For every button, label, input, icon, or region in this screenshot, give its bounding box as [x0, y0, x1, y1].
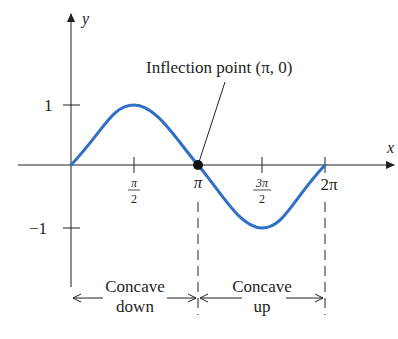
concave-up-line1: Concave: [232, 277, 291, 296]
y-axis-label: y: [80, 10, 90, 28]
inflection-point-label: Inflection point (π, 0): [146, 58, 292, 77]
x-tick-pi: π: [194, 173, 203, 192]
annotation-leader-line: [198, 82, 225, 165]
concave-down-line1: Concave: [105, 277, 164, 296]
concave-down-line2: down: [116, 297, 154, 316]
inflection-point-marker: [193, 160, 203, 170]
concave-up-line2: up: [254, 297, 271, 316]
sine-concavity-diagram: y x 1 −1 π 2 π 3π 2 2π Inflection point …: [0, 0, 398, 339]
y-tick-neg1: −1: [29, 219, 47, 238]
axes: y x: [18, 10, 394, 287]
x-axis-label: x: [386, 139, 394, 156]
region-concave-up: Concave up: [200, 277, 323, 316]
x-ticks: π 2 π 3π 2 2π: [128, 157, 338, 206]
y-tick-1: 1: [44, 96, 53, 115]
x-tick-3pi-over-2-den: 2: [259, 192, 265, 206]
x-tick-3pi-over-2-num: 3π: [255, 176, 269, 190]
y-ticks: 1 −1: [29, 96, 80, 238]
x-tick-pi-over-2-den: 2: [131, 192, 137, 206]
region-concave-down: Concave down: [73, 277, 196, 316]
x-tick-pi-over-2-num: π: [131, 176, 138, 190]
x-tick-2pi: 2π: [320, 175, 338, 194]
